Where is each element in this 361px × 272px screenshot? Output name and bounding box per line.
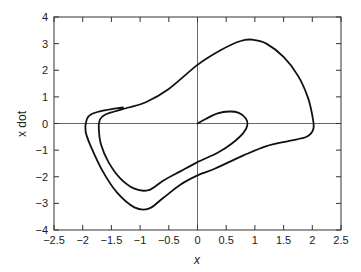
x-tick-label: −1.5 (101, 234, 123, 246)
x-tick-label: −1 (134, 234, 147, 246)
phase-portrait-chart: −2.5−2−1.5−1−0.500.511.522.5−4−3−2−10123… (0, 0, 361, 272)
y-tick-label: −2 (35, 171, 48, 183)
y-tick-label: −4 (35, 224, 48, 236)
data-series (85, 39, 313, 209)
x-tick-label: 0.5 (219, 234, 234, 246)
x-tick-label: 1 (252, 234, 258, 246)
y-tick-label: 1 (42, 91, 48, 103)
x-tick-label: −0.5 (158, 234, 180, 246)
x-axis-label: x (193, 253, 201, 267)
y-tick-label: −3 (35, 197, 48, 209)
x-tick-label: −2 (76, 234, 89, 246)
y-axis-label: x dot (15, 110, 29, 137)
y-tick-label: 2 (42, 64, 48, 76)
y-tick-label: −1 (35, 144, 48, 156)
x-tick-label: 2 (309, 234, 315, 246)
x-tick-label: 0 (194, 234, 200, 246)
x-tick-label: 1.5 (276, 234, 291, 246)
axis-ticks: −2.5−2−1.5−1−0.500.511.522.5−4−3−2−10123… (35, 11, 348, 246)
phase-trajectory-line (85, 39, 313, 209)
x-tick-label: 2.5 (333, 234, 348, 246)
y-tick-label: 0 (42, 118, 48, 130)
y-tick-label: 3 (42, 38, 48, 50)
y-tick-label: 4 (42, 11, 48, 23)
